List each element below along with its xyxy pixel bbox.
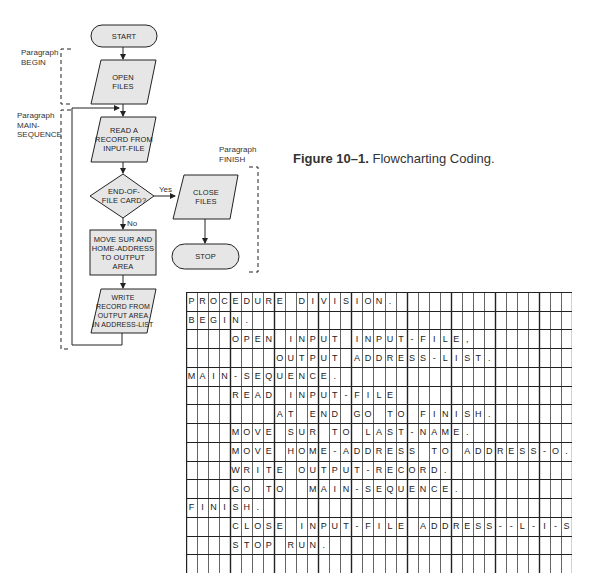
coding-sheet-char: O [241, 479, 252, 498]
coding-sheet-char: D [373, 348, 384, 367]
coding-sheet-char: . [484, 404, 495, 423]
coding-sheet-char: M [307, 479, 318, 498]
coding-sheet-char: A [373, 423, 384, 442]
coding-sheet-char: T [329, 329, 340, 348]
coding-sheet-char: E [318, 367, 329, 386]
coding-sheet-char: . [484, 348, 495, 367]
paragraph-begin-line-1: Paragraph [21, 48, 58, 58]
coding-sheet-char: E [396, 348, 407, 367]
move-line-2: HOME-ADDRESS [92, 244, 154, 253]
coding-sheet-char: A [351, 348, 362, 367]
coding-sheet-char: O [296, 461, 307, 480]
coding-sheet-char: S [473, 517, 484, 536]
coding-sheet-char: V [252, 442, 263, 461]
coding-sheet-char: I [451, 404, 462, 423]
coding-sheet-char: N [440, 404, 451, 423]
coding-sheet-char: O [440, 442, 451, 461]
move-line-3: TO OUTPUT AREA [90, 253, 156, 271]
no-label: No [127, 219, 137, 229]
coding-sheet-char: D [429, 461, 440, 480]
coding-sheet-char: O [396, 404, 407, 423]
coding-sheet-char: Q [385, 479, 396, 498]
coding-sheet-char: U [274, 367, 285, 386]
coding-sheet-char: D [484, 442, 495, 461]
move-label: MOVE SUR AND HOME-ADDRESS TO OUTPUT AREA [90, 230, 156, 275]
coding-sheet-char: U [307, 461, 318, 480]
coding-sheet-char: T [329, 423, 340, 442]
start-label: START [91, 25, 157, 47]
coding-sheet-char: , [462, 329, 473, 348]
coding-sheet-char: E [263, 423, 274, 442]
coding-sheet-char: I [252, 461, 263, 480]
coding-sheet-char: F [418, 329, 429, 348]
coding-sheet-char: . [241, 311, 252, 330]
coding-sheet-char: T [385, 404, 396, 423]
coding-sheet-char: E [252, 367, 263, 386]
coding-sheet-char: I [208, 367, 219, 386]
coding-sheet-char: - [495, 517, 506, 536]
coding-sheet-char: E [285, 367, 296, 386]
coding-sheet-char: F [351, 386, 362, 405]
coding-sheet-char: I [197, 498, 208, 517]
coding-sheet-char: T [241, 536, 252, 555]
finish-bracket [248, 167, 258, 272]
coding-sheet-char: N [219, 367, 230, 386]
coding-sheet-char: U [318, 348, 329, 367]
coding-sheet-char: L [440, 348, 451, 367]
coding-sheet-char: H [473, 404, 484, 423]
coding-sheet-char: P [373, 329, 384, 348]
coding-sheet-char: I [285, 329, 296, 348]
coding-sheet-char: S [484, 517, 495, 536]
figure-title: Flowcharting Coding. [373, 151, 495, 166]
coding-sheet-char: P [307, 329, 318, 348]
coding-sheet-char: - [230, 367, 241, 386]
coding-sheet-char: G [351, 404, 362, 423]
coding-sheet-char: D [263, 386, 274, 405]
figure-caption: Figure 10–1. Flowcharting Coding. [293, 151, 495, 166]
coding-sheet-char: N [318, 404, 329, 423]
close-files-line-1: CLOSE [193, 188, 219, 197]
coding-sheet-char: U [285, 348, 296, 367]
coding-sheet-char: S [230, 536, 241, 555]
coding-sheet-char: R [373, 442, 384, 461]
write-line-3: OUTPUT AREA [98, 311, 148, 320]
write-line-2: RECORD FROM [96, 302, 150, 311]
coding-sheet-char: N [373, 292, 384, 311]
coding-sheet-char: R [451, 517, 462, 536]
open-files-line-1: OPEN [112, 73, 134, 82]
coding-sheet-char: U [296, 536, 307, 555]
coding-sheet-char: V [252, 423, 263, 442]
coding-sheet-char: E [241, 386, 252, 405]
coding-sheet-char: T [396, 329, 407, 348]
coding-sheet-char: - [429, 348, 440, 367]
coding-sheet-char: S [561, 517, 572, 536]
coding-sheet-char: S [462, 348, 473, 367]
coding-sheet-char: R [241, 461, 252, 480]
open-files-line-2: FILES [112, 82, 133, 91]
coding-sheet-char: A [340, 442, 351, 461]
coding-sheet-char: N [296, 367, 307, 386]
coding-sheet-char: S [462, 404, 473, 423]
coding-sheet-char: R [263, 292, 274, 311]
coding-sheet-char: E [318, 442, 329, 461]
coding-sheet-char: T [429, 442, 440, 461]
coding-sheet-char: N [230, 311, 241, 330]
coding-sheet-char: U [318, 386, 329, 405]
coding-sheet-char: R [495, 442, 506, 461]
coding-sheet-char: E [451, 329, 462, 348]
coding-sheet-char: D [296, 292, 307, 311]
coding-sheet-char: G [208, 311, 219, 330]
coding-sheet-char: T [285, 404, 296, 423]
coding-sheet-char: C [230, 517, 241, 536]
coding-sheet-char: P [186, 292, 197, 311]
coding-sheet-char: T [329, 348, 340, 367]
coding-sheet-char: L [517, 517, 528, 536]
coding-sheet-char: I [329, 479, 340, 498]
coding-sheet-char: R [373, 461, 384, 480]
coding-sheet-char: E [451, 423, 462, 442]
decision-line-2: FILE CARD? [102, 196, 146, 205]
coding-sheet-char: N [340, 479, 351, 498]
coding-sheet-char: N [362, 329, 373, 348]
decision-label: END-OF- FILE CARD? [95, 180, 153, 212]
coding-sheet-char: N [418, 423, 429, 442]
